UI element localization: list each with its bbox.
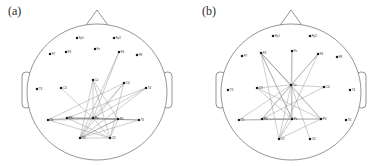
electrode-node-pz bbox=[92, 117, 94, 119]
electrode-node-p3 bbox=[66, 117, 68, 119]
electrode-node-t3 bbox=[36, 88, 38, 90]
electrode-node-f8 bbox=[136, 54, 138, 56]
electrode-label-c4: C4 bbox=[326, 85, 330, 89]
electrode-node-c3 bbox=[256, 87, 258, 89]
electrode-label-fp2: Fp2 bbox=[116, 36, 121, 40]
electrode-node-t4 bbox=[145, 87, 147, 89]
head-outline bbox=[27, 24, 167, 160]
electrode-label-fz: Fz bbox=[294, 49, 298, 53]
electrode-label-o1: O1 bbox=[82, 136, 86, 140]
electrode-node-f4 bbox=[118, 51, 120, 53]
electrode-label-pz: Pz bbox=[294, 117, 298, 121]
electrode-node-o1 bbox=[79, 137, 81, 139]
electrode-label-p3: P3 bbox=[264, 117, 268, 121]
electrode-label-t4: T4 bbox=[352, 88, 356, 92]
electrode-node-fp2 bbox=[113, 37, 115, 39]
electrode-label-fp2: Fp2 bbox=[312, 34, 317, 38]
electrode-node-t6 bbox=[138, 119, 140, 121]
electrode-node-pz bbox=[291, 118, 293, 120]
electrode-label-t6: T6 bbox=[141, 118, 145, 122]
electrode-label-o2: O2 bbox=[112, 136, 116, 140]
electrode-label-c4: C4 bbox=[126, 81, 130, 85]
electrode-node-p4 bbox=[320, 118, 322, 120]
electrode-node-f4 bbox=[317, 53, 319, 55]
electrode-node-c4 bbox=[123, 82, 125, 84]
electrode-label-t3: T3 bbox=[230, 88, 234, 92]
electrode-label-f7: F7 bbox=[52, 52, 56, 56]
electrode-node-o2 bbox=[109, 137, 111, 139]
electrode-label-cz: Cz bbox=[95, 78, 99, 82]
electrode-node-c3 bbox=[60, 87, 62, 89]
electrode-label-f8: F8 bbox=[339, 55, 343, 59]
head-map-b: Fp1Fp2F7F3FzF4F8T3C3CzC4T4T5P3PzP4T6O1O2 bbox=[194, 0, 388, 166]
eeg-connectivity-figure: (a) Fp1Fp2F7F3FzF4F8T3C3CzC4T4T5P3PzP4T6… bbox=[0, 0, 388, 166]
electrode-node-fz bbox=[291, 50, 293, 52]
electrode-node-t6 bbox=[345, 119, 347, 121]
electrode-node-t4 bbox=[349, 89, 351, 91]
electrode-label-f4: F4 bbox=[320, 52, 324, 56]
electrode-label-f8: F8 bbox=[139, 53, 143, 57]
electrode-node-t3 bbox=[227, 89, 229, 91]
electrode-node-p4 bbox=[117, 118, 119, 120]
electrode-node-f8 bbox=[336, 56, 338, 58]
electrode-node-o1 bbox=[278, 138, 280, 140]
electrode-label-f4: F4 bbox=[121, 50, 125, 54]
electrode-node-fz bbox=[94, 48, 96, 50]
electrode-node-f3 bbox=[65, 51, 67, 53]
electrode-label-o1: O1 bbox=[281, 137, 285, 141]
electrode-node-c4 bbox=[323, 86, 325, 88]
electrode-node-f3 bbox=[260, 52, 262, 54]
electrode-node-t5 bbox=[238, 119, 240, 121]
panel-a: (a) Fp1Fp2F7F3FzF4F8T3C3CzC4T4T5P3PzP4T6… bbox=[0, 0, 194, 166]
electrode-node-o2 bbox=[309, 138, 311, 140]
electrode-node-f7 bbox=[49, 53, 51, 55]
electrode-label-p4: P4 bbox=[323, 117, 327, 121]
electrode-label-fp1: Fp1 bbox=[79, 36, 84, 40]
electrode-label-p3: P3 bbox=[69, 116, 73, 120]
electrode-node-cz bbox=[92, 79, 94, 81]
electrode-label-f7: F7 bbox=[244, 54, 248, 58]
electrode-node-t5 bbox=[47, 119, 49, 121]
electrode-node-cz bbox=[290, 84, 292, 86]
electrode-label-t3: T3 bbox=[39, 87, 43, 91]
electrode-label-o2: O2 bbox=[312, 137, 316, 141]
electrode-label-t5: T5 bbox=[241, 118, 245, 122]
electrode-label-t4: T4 bbox=[148, 86, 152, 90]
electrode-label-c3: C3 bbox=[259, 86, 263, 90]
electrode-label-f3: F3 bbox=[68, 50, 72, 54]
electrode-label-pz: Pz bbox=[95, 116, 99, 120]
electrode-label-fp1: Fp1 bbox=[275, 34, 280, 38]
panel-b: (b) Fp1Fp2F7F3FzF4F8T3C3CzC4T4T5P3PzP4T6… bbox=[194, 0, 388, 166]
electrode-node-fp1 bbox=[76, 37, 78, 39]
electrode-label-f3: F3 bbox=[263, 51, 267, 55]
head-map-a: Fp1Fp2F7F3FzF4F8T3C3CzC4T4T5P3PzP4T6O1O2 bbox=[0, 0, 194, 166]
electrode-label-fz: Fz bbox=[97, 47, 101, 51]
electrode-label-c3: C3 bbox=[63, 86, 67, 90]
electrode-node-fp2 bbox=[309, 35, 311, 37]
electrode-label-t5: T5 bbox=[50, 118, 54, 122]
electrode-node-fp1 bbox=[272, 35, 274, 37]
electrode-node-f7 bbox=[241, 55, 243, 57]
electrode-node-p3 bbox=[261, 118, 263, 120]
electrode-label-p4: P4 bbox=[120, 117, 124, 121]
electrode-label-cz: Cz bbox=[293, 83, 297, 87]
electrode-label-t6: T6 bbox=[348, 118, 352, 122]
